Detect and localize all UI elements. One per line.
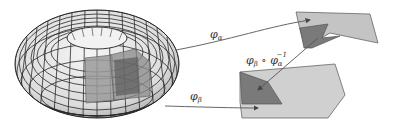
chart-image-alpha: [296, 12, 378, 48]
chart-overlap: [114, 57, 140, 96]
chart-domain-beta: [85, 55, 114, 103]
label-phi-alpha: φα: [210, 28, 223, 42]
torus-hole: [67, 27, 127, 49]
label-transition-map: φβ ∘ φα−1: [246, 51, 287, 68]
chart-image-beta: [240, 64, 345, 118]
torus: [15, 10, 179, 118]
manifold-diagram: φα φβ φβ ∘ φα−1: [0, 0, 395, 127]
label-phi-beta: φβ: [190, 90, 202, 104]
arrow-phi-alpha: [176, 20, 310, 50]
